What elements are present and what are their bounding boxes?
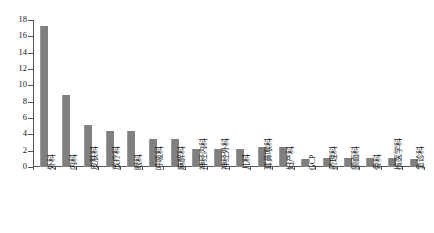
x-axis-tick-label: 儿科: [243, 154, 251, 170]
x-axis-tick-label: 皮肤科: [91, 146, 99, 170]
y-axis-tick-label: 6: [0, 113, 27, 122]
x-axis-tick-label: 内科: [70, 154, 78, 170]
x-axis-tick-label: GCP: [309, 154, 317, 170]
x-axis-tick-label: 急诊科: [417, 146, 425, 170]
bar-chart: 024681012141618 外科内科皮肤科放疗科眼科呼吸科麻醉科神经内科神经…: [0, 0, 434, 233]
y-axis-tick-label: 8: [0, 97, 27, 106]
x-axis-tick-label: 眼科: [135, 154, 143, 170]
x-axis-tick-label: 外科: [48, 154, 56, 170]
y-axis-tick-label: 12: [0, 64, 27, 73]
y-axis-tick-label: 2: [0, 146, 27, 155]
x-axis-labels: 外科内科皮肤科放疗科眼科呼吸科麻醉科神经内科神经外科儿科耳鼻喉科妇产科GCP药理…: [33, 170, 424, 233]
y-axis-tick-label: 16: [0, 31, 27, 40]
x-axis-tick-label: 神经外科: [222, 138, 230, 170]
x-axis-tick-label: 核医学科: [395, 138, 403, 170]
y-axis-tick-label: 0: [0, 162, 27, 171]
x-axis-tick-label: 放疗科: [113, 146, 121, 170]
y-axis-tick-label: 14: [0, 48, 27, 57]
y-axis-tick-label: 10: [0, 80, 27, 89]
x-axis-tick-label: 呼吸科: [156, 146, 164, 170]
bar: [40, 26, 48, 167]
x-axis-tick-label: 颌面科: [352, 146, 360, 170]
x-axis-tick-label: 妇产科: [287, 146, 295, 170]
y-axis-tick-label: 4: [0, 129, 27, 138]
x-axis-tick-label: 麻醉科: [178, 146, 186, 170]
y-axis-tick-label: 18: [0, 15, 27, 24]
x-axis-tick-label: 神经内科: [200, 138, 208, 170]
x-axis-tick-label: 药理科: [330, 146, 338, 170]
x-axis-tick-label: 耳鼻喉科: [265, 138, 273, 170]
x-axis-tick-label: 骨科: [374, 154, 382, 170]
